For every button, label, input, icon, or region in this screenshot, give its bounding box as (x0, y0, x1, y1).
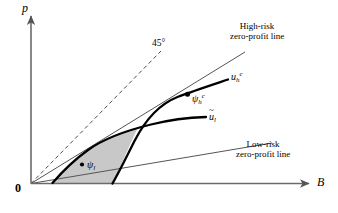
low-risk-zero-profit-label-line1: Low-risk (236, 139, 290, 149)
point-psi-h-c-marker (185, 92, 190, 97)
high-risk-zero-profit-label: High-risk zero-profit line (230, 21, 284, 42)
high-risk-zero-profit-label-line1: High-risk (230, 21, 284, 31)
shaded-region (53, 128, 139, 184)
curve-label-superscript: c (240, 70, 243, 78)
point-psi-l-marker (80, 162, 84, 166)
x-axis-label: B (317, 176, 324, 190)
low-risk-indifference-curve-label: ~ul (209, 111, 216, 124)
y-axis-label: p (22, 2, 28, 16)
tilde-accent-icon: ~ (209, 105, 214, 115)
tilde-accent-wrap: ~u (209, 111, 214, 123)
high-risk-zero-profit-label-line2: zero-profit line (230, 31, 284, 41)
point-label-subscript: l (93, 164, 95, 172)
point-psi-h-c-label: ψhc (192, 92, 205, 106)
point-psi-l-label: ψl (87, 159, 95, 172)
diagram-canvas (0, 0, 338, 213)
origin-label: 0 (15, 182, 21, 196)
low-risk-zero-profit-label: Low-risk zero-profit line (236, 139, 290, 160)
low-risk-zero-profit-label-line2: zero-profit line (236, 149, 290, 159)
high-risk-indifference-curve-label: uhc (231, 70, 243, 84)
curve-label-subscript: l (214, 116, 216, 124)
point-label-superscript: c (202, 92, 205, 100)
economics-diagram-figure: p B 0 45° High-risk zero-profit line Low… (0, 0, 338, 213)
forty-five-degree-label: 45° (152, 38, 165, 49)
